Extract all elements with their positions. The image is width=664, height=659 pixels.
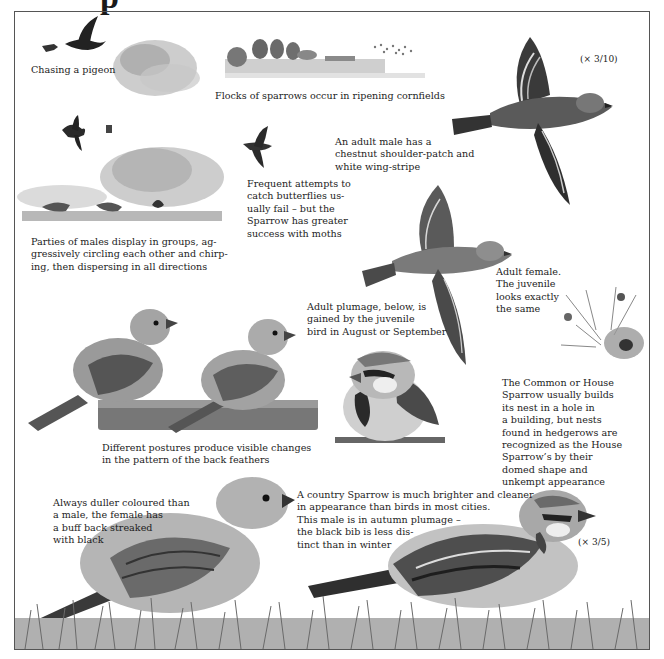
scale-flying-male: (× 3/10)	[580, 54, 618, 64]
caption-flocks-cornfields: Flocks of sparrows occur in ripening cor…	[215, 90, 445, 102]
cornfield-landscape-illustration	[215, 35, 445, 85]
caption-adult-plumage: Adult plumage, below, is gained by the j…	[307, 301, 446, 338]
grass-foreground-illustration	[15, 590, 649, 649]
flock-over-bushes-illustration	[100, 30, 210, 110]
caption-nest: The Common or House Sparrow usually buil…	[502, 377, 622, 489]
caption-chasing-pigeon: Chasing a pigeon	[31, 64, 115, 76]
scale-bottom-male: (× 3/5)	[578, 537, 610, 547]
caption-country-sparrow: A country Sparrow is much brighter and c…	[297, 489, 534, 551]
caption-adult-female-flight: Adult female. The juvenile looks exactly…	[496, 266, 561, 316]
male-sparrow-perched-illustration	[335, 345, 445, 450]
flying-adult-female-illustration	[362, 183, 517, 368]
males-displaying-illustration	[22, 115, 237, 225]
juvenile-sparrows-perched-illustration	[28, 305, 323, 440]
nest-in-hedgerow-illustration	[556, 285, 651, 375]
sparrow-chasing-butterfly-illustration	[238, 124, 278, 169]
caption-duller-female: Always duller coloured than a male, the …	[53, 497, 190, 547]
caption-adult-male-flight: An adult male has a chestnut shoulder-pa…	[335, 136, 474, 173]
caption-postures: Different postures produce visible chang…	[102, 442, 311, 467]
caption-parties-of-males: Parties of males display in groups, ag- …	[31, 236, 228, 273]
caption-butterflies: Frequent attempts to catch butterflies u…	[247, 178, 351, 240]
